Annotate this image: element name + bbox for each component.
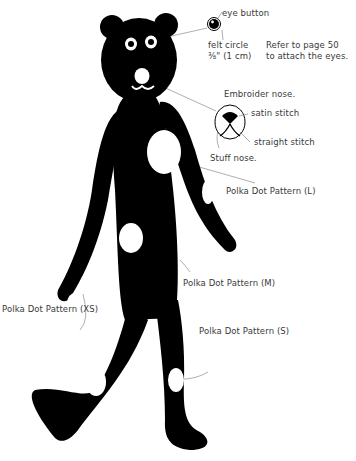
- label-polka-s: Polka Dot Pattern (S): [199, 326, 289, 336]
- label-polka-m: Polka Dot Pattern (M): [183, 278, 275, 288]
- label-stuff-nose: Stuff nose.: [210, 153, 257, 163]
- label-straight-stitch: straight stitch: [254, 137, 315, 147]
- label-eyes-ref-2: to attach the eyes.: [266, 51, 348, 61]
- polka-dot-l: [147, 130, 181, 174]
- polka-dot-r-arm: [202, 180, 214, 204]
- label-polka-l: Polka Dot Pattern (L): [226, 186, 316, 196]
- nose-detail-icon: [215, 105, 250, 142]
- polka-dot-leg: [86, 368, 106, 396]
- label-satin-stitch: satin stitch: [251, 108, 299, 118]
- polka-dot-m: [119, 223, 143, 253]
- label-embroider-nose: Embroider nose.: [224, 89, 295, 99]
- label-felt-circle: felt circle: [208, 40, 248, 50]
- label-polka-xs: Polka Dot Pattern (XS): [2, 304, 98, 314]
- label-eye-button: eye button: [222, 8, 269, 18]
- polka-dot-s: [168, 368, 184, 392]
- eye-button-icon: [208, 12, 224, 40]
- bear-illustration: [0, 0, 356, 461]
- label-felt-size: ⅜" (1 cm): [208, 51, 251, 61]
- label-eyes-ref-1: Refer to page 50: [266, 40, 339, 50]
